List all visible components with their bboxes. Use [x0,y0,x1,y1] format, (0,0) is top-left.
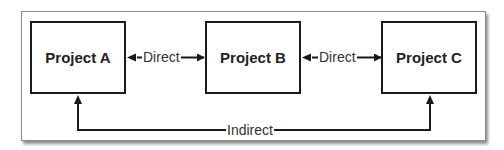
node-label: Project A [45,49,110,66]
edge-label-b-c: Direct [318,49,357,65]
node-project-a: Project A [30,21,126,94]
node-label: Project C [396,49,462,66]
node-project-c: Project C [381,21,477,94]
node-project-b: Project B [205,21,301,94]
edge-label-a-c: Indirect [226,122,274,138]
edge-label-a-b: Direct [142,49,181,65]
node-label: Project B [220,49,286,66]
